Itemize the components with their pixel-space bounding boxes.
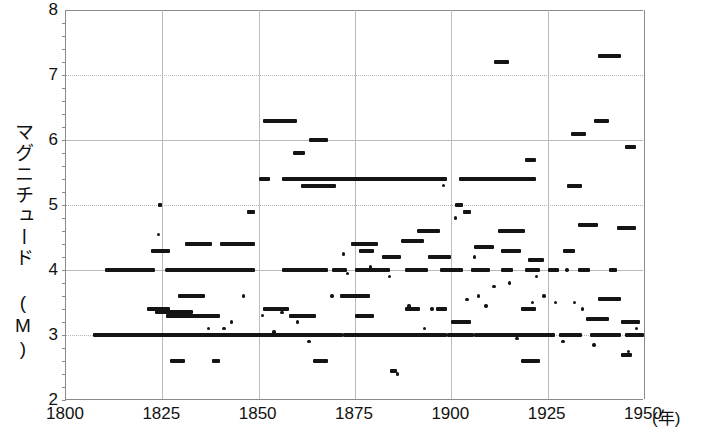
data-point [342, 252, 345, 255]
data-point [230, 320, 233, 323]
gridline-x-1925 [548, 10, 549, 399]
data-segment [567, 184, 582, 188]
data-point [407, 304, 410, 307]
data-segment [405, 307, 420, 311]
data-segment [282, 268, 328, 272]
data-point [531, 301, 534, 304]
y-minor-tick [62, 205, 66, 206]
y-minor-tick [62, 218, 66, 219]
data-point [465, 298, 468, 301]
y-tick-label-3: 3 [18, 325, 58, 345]
gridline-x-1875 [355, 10, 356, 399]
x-tick-label-1825: 1825 [142, 404, 180, 424]
data-segment [309, 138, 328, 142]
y-minor-tick [62, 88, 66, 89]
data-segment [428, 255, 451, 259]
y-minor-tick [62, 244, 66, 245]
x-tick-label-1850: 1850 [239, 404, 277, 424]
data-point [573, 301, 576, 304]
data-segment [313, 359, 328, 363]
data-point [581, 307, 584, 310]
data-segment [105, 268, 155, 272]
data-segment [625, 145, 637, 149]
data-segment [355, 268, 390, 272]
data-segment [559, 333, 582, 337]
data-segment [436, 307, 448, 311]
y-minor-tick [62, 114, 66, 115]
data-segment [220, 242, 255, 246]
data-point [192, 268, 195, 271]
data-segment [263, 307, 290, 311]
y-minor-tick [62, 231, 66, 232]
data-point [535, 275, 538, 278]
data-segment [151, 249, 170, 253]
data-segment [351, 242, 378, 246]
y-minor-tick [62, 387, 66, 388]
data-segment [598, 297, 621, 301]
magnitude-scatter-figure: マグニチュード (M) 2345678180018251850187519001… [0, 0, 706, 445]
data-point [561, 340, 564, 343]
y-minor-tick [62, 166, 66, 167]
data-point [592, 343, 595, 346]
data-segment [494, 60, 509, 64]
y-minor-tick [62, 101, 66, 102]
data-point [369, 265, 372, 268]
data-segment [578, 223, 597, 227]
data-segment [617, 226, 636, 230]
data-segment [471, 268, 490, 272]
data-point [508, 281, 511, 284]
data-segment [93, 333, 343, 337]
gridline-x-1825 [162, 10, 163, 399]
data-segment [621, 353, 633, 357]
data-point [484, 304, 487, 307]
data-segment [474, 245, 493, 249]
data-point [430, 307, 433, 310]
y-tick-label-7: 7 [18, 65, 58, 85]
data-segment [501, 249, 520, 253]
data-segment [332, 268, 347, 272]
y-minor-tick [62, 361, 66, 362]
data-point [442, 184, 445, 187]
y-minor-tick [62, 153, 66, 154]
y-minor-tick [62, 283, 66, 284]
data-segment [343, 333, 447, 337]
gridline-y-5 [66, 205, 643, 206]
data-segment [525, 268, 540, 272]
data-point [554, 301, 557, 304]
data-segment [621, 320, 640, 324]
y-minor-tick [62, 192, 66, 193]
data-point [261, 314, 264, 317]
data-point [307, 340, 310, 343]
data-point [565, 268, 568, 271]
data-segment [301, 184, 336, 188]
data-segment [598, 54, 621, 58]
data-point [492, 285, 495, 288]
data-segment [166, 268, 255, 272]
data-point [388, 275, 391, 278]
data-segment [259, 177, 271, 181]
gridline-x-1850 [259, 10, 260, 399]
data-point [473, 255, 476, 258]
y-minor-tick [62, 75, 66, 76]
data-point [604, 333, 607, 336]
data-segment [455, 203, 463, 207]
data-segment [571, 132, 586, 136]
x-tick-label-1925: 1925 [528, 404, 566, 424]
data-segment [459, 177, 536, 181]
data-point [207, 327, 210, 330]
data-segment [447, 333, 474, 337]
y-minor-tick [62, 309, 66, 310]
data-segment [440, 268, 463, 272]
y-minor-tick [62, 335, 66, 336]
gridline-x-minor-1900 [451, 10, 452, 399]
data-point [612, 268, 615, 271]
data-point [454, 216, 457, 219]
y-minor-tick [62, 348, 66, 349]
data-point [423, 327, 426, 330]
data-segment [417, 229, 440, 233]
x-tick-label-1800: 1800 [46, 404, 84, 424]
data-segment [525, 158, 537, 162]
gridline-x-minor-1850 [259, 10, 260, 399]
data-segment [170, 359, 185, 363]
y-minor-tick [62, 140, 66, 141]
